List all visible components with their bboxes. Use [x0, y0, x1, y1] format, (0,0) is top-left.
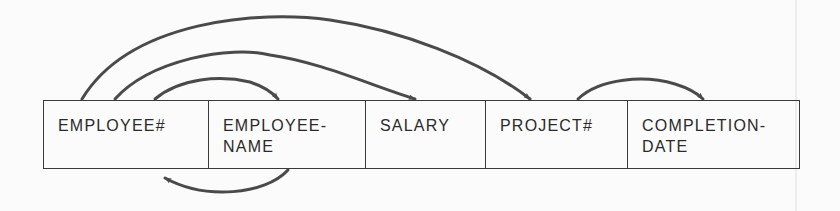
arrow-name-to-employee: [165, 170, 288, 192]
arrow-employee-to-salary: [115, 52, 415, 99]
field-project-number: PROJECT#: [486, 101, 628, 168]
field-salary: SALARY: [366, 101, 486, 168]
relation-record: EMPLOYEE# EMPLOYEE- NAME SALARY PROJECT#…: [43, 100, 800, 169]
arrow-employee-to-name: [155, 79, 278, 99]
arrow-project-to-completion: [578, 79, 703, 99]
field-completion-date: COMPLETION- DATE: [628, 101, 799, 168]
arrow-employee-to-project: [82, 17, 530, 99]
field-employee-name: EMPLOYEE- NAME: [209, 101, 366, 168]
field-employee-number: EMPLOYEE#: [44, 101, 209, 168]
